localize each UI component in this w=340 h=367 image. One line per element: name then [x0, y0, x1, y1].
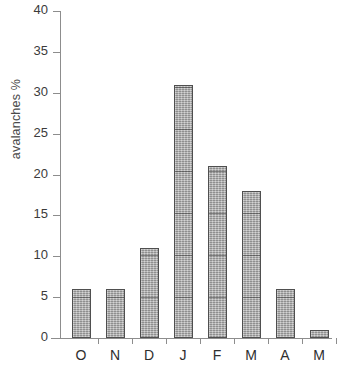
x-axis-tick-label: J: [168, 347, 198, 363]
y-axis-tick: 10: [53, 256, 60, 257]
bar: [310, 330, 329, 338]
x-axis-tick-label: M: [304, 347, 334, 363]
x-axis-tick-label: O: [66, 347, 96, 363]
y-axis-title: avalanches %: [9, 59, 23, 179]
bar-texture-band: [209, 255, 226, 256]
y-axis-tick: 5: [53, 297, 60, 298]
x-axis-line: [51, 338, 332, 339]
x-axis-tick: [98, 338, 99, 344]
avalanches-bar-chart: avalanches % 0510152025303540 ONDJFMAM: [0, 0, 340, 367]
y-axis-tick-label: 25: [34, 125, 48, 140]
bar-texture-band: [175, 297, 192, 298]
bar-texture-band: [209, 171, 226, 172]
y-axis-tick: 15: [53, 215, 60, 216]
x-axis-tick-label: A: [270, 347, 300, 363]
y-axis-tick: 20: [53, 175, 60, 176]
x-axis-tick: [200, 338, 201, 344]
bar: [174, 85, 193, 338]
bar: [208, 166, 227, 338]
bar-texture-band: [175, 87, 192, 88]
plot-area: 0510152025303540 ONDJFMAM: [60, 11, 332, 338]
bar: [72, 289, 91, 338]
bar: [276, 289, 295, 338]
bar-texture-band: [141, 255, 158, 256]
y-axis-tick-label: 15: [34, 206, 48, 221]
y-axis-tick-label: 40: [34, 2, 48, 17]
x-axis-tick: [166, 338, 167, 344]
x-axis-tick: [336, 338, 337, 344]
x-axis-tick-label: M: [236, 347, 266, 363]
y-axis-tick-label: 35: [34, 43, 48, 58]
bar-texture-band: [209, 297, 226, 298]
bar-texture-band: [107, 297, 124, 298]
y-axis-tick-label: 20: [34, 166, 48, 181]
bar-texture-band: [175, 255, 192, 256]
bar-texture-band: [243, 213, 260, 214]
y-axis-tick-label: 10: [34, 247, 48, 262]
bar-texture-band: [175, 213, 192, 214]
x-axis-tick: [234, 338, 235, 344]
y-axis-line: [60, 11, 61, 338]
y-axis-tick-label: 5: [41, 288, 48, 303]
bar-texture-band: [175, 129, 192, 130]
bar: [140, 248, 159, 338]
bar-texture-band: [73, 297, 90, 298]
bar-texture-band: [243, 255, 260, 256]
y-axis-tick: 30: [53, 93, 60, 94]
bar: [106, 289, 125, 338]
bar-texture-band: [209, 213, 226, 214]
y-axis-tick: 35: [53, 52, 60, 53]
bar-texture-band: [243, 297, 260, 298]
x-axis-tick-label: N: [100, 347, 130, 363]
y-axis-tick: 40: [53, 11, 60, 12]
x-axis-tick: [268, 338, 269, 344]
x-axis-tick-label: F: [202, 347, 232, 363]
y-axis-tick-label: 0: [41, 329, 48, 344]
bar-texture-band: [175, 171, 192, 172]
x-axis-tick-label: D: [134, 347, 164, 363]
bar: [242, 191, 261, 338]
x-axis-tick: [302, 338, 303, 344]
bar-texture-band: [277, 297, 294, 298]
y-axis-tick-label: 30: [34, 84, 48, 99]
y-axis-tick: 25: [53, 134, 60, 135]
x-axis-tick: [132, 338, 133, 344]
y-axis-tick: 0: [53, 338, 60, 339]
bar-texture-band: [141, 297, 158, 298]
